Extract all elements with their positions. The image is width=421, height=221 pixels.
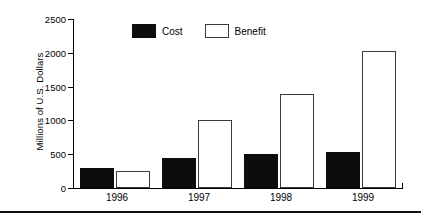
x-axis-line (73, 188, 403, 189)
legend-entry-benefit: Benefit (205, 24, 266, 38)
bar-cost-1999 (326, 152, 360, 188)
x-tick-label-1998: 1998 (251, 192, 311, 203)
bar-cost-1996 (80, 168, 114, 188)
y-tick-label: 1500 (26, 82, 66, 93)
y-tick-label: 2000 (26, 48, 66, 59)
bottom-divider (0, 211, 421, 213)
legend-label-benefit: Benefit (235, 26, 266, 37)
y-tick-label: 1000 (26, 115, 66, 126)
bar-benefit-1998 (280, 94, 314, 188)
bar-benefit-1999 (362, 51, 396, 188)
bar-group-1997 (162, 19, 234, 188)
plot-area (74, 19, 403, 188)
bar-group-1999 (326, 19, 398, 188)
bar-chart-figure: Millions of U.S. Dollars 0 500 1000 1500… (0, 0, 421, 221)
y-tick-label: 2500 (26, 14, 66, 25)
x-tick-label-1996: 1996 (87, 192, 147, 203)
legend-swatch-benefit-icon (205, 24, 229, 38)
bar-benefit-1996 (116, 171, 150, 188)
bar-cost-1997 (162, 158, 196, 188)
bar-group-1998 (244, 19, 316, 188)
legend-label-cost: Cost (162, 26, 183, 37)
y-tick-label: 500 (26, 149, 66, 160)
y-tick-label: 0 (26, 183, 66, 194)
chart-legend: Cost Benefit (132, 24, 266, 38)
bar-cost-1998 (244, 154, 278, 188)
bar-benefit-1997 (198, 120, 232, 188)
legend-swatch-cost-icon (132, 24, 156, 38)
legend-entry-cost: Cost (132, 24, 183, 38)
x-tick-label-1997: 1997 (169, 192, 229, 203)
bar-group-1996 (80, 19, 152, 188)
x-tick-label-1999: 1999 (333, 192, 393, 203)
y-axis-tick-labels: 0 500 1000 1500 2000 2500 (26, 0, 66, 221)
chart-page: Millions of U.S. Dollars 0 500 1000 1500… (0, 0, 421, 221)
